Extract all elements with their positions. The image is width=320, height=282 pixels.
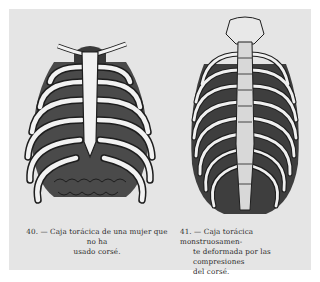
caption-line: te deformada por las compresiones [180, 247, 310, 267]
normal-ribcage-illustration [14, 22, 166, 222]
figure-41-caption: 41. — Caja torácica monstruosamen- te de… [180, 227, 310, 277]
caption-line: 41. — Caja torácica monstruosamen- [180, 227, 310, 247]
deformed-ribcage-illustration [184, 14, 306, 222]
figure-40-caption: 40. — Caja torácica de una mujer que no … [22, 227, 172, 257]
caption-line: 40. — Caja torácica de una mujer que no … [22, 227, 172, 247]
caption-line: usado corsé. [22, 247, 172, 257]
caption-line: del corsé. [180, 267, 310, 277]
